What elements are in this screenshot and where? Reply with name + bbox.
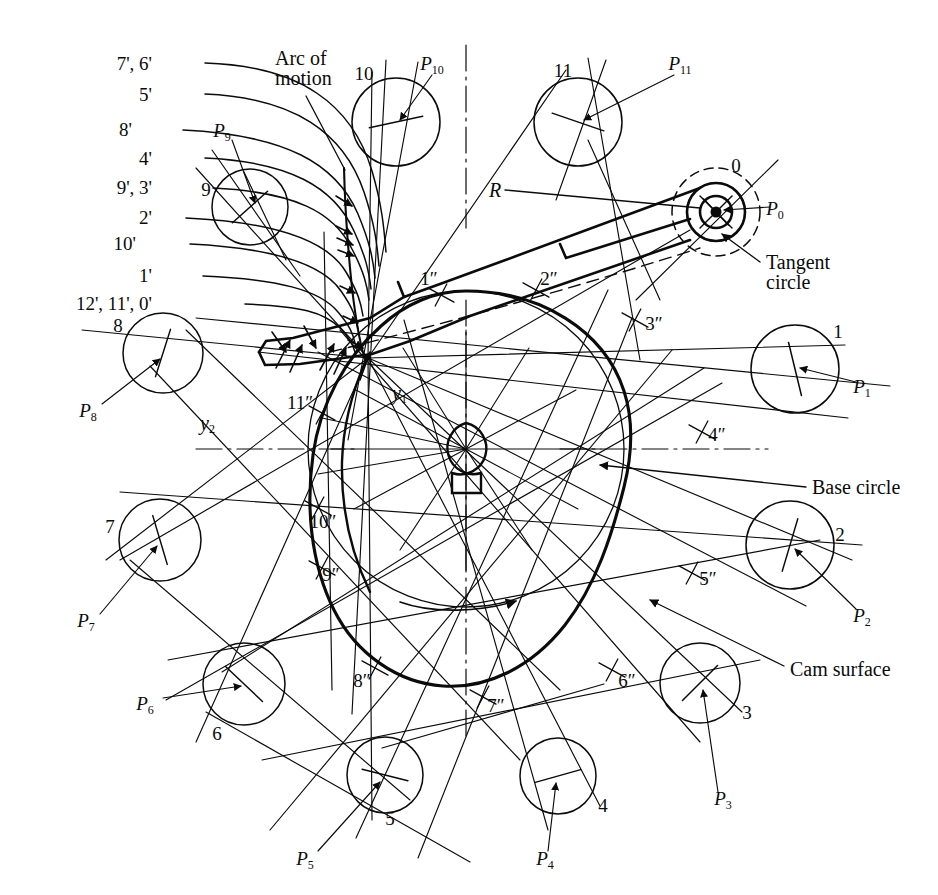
cam-layout-drawing <box>0 0 938 895</box>
position-label-P0: P0 <box>766 199 784 220</box>
roller-tick-3 <box>682 665 717 700</box>
leader-tangent-circle <box>722 234 760 262</box>
position-label-P2: P2 <box>853 606 871 627</box>
roller-number-5: 5 <box>385 809 395 828</box>
position-label-P4: P4 <box>536 849 554 870</box>
position-label-P10: P10 <box>420 54 444 75</box>
roller-number-11: 11 <box>554 61 572 80</box>
roller-number-1: 1 <box>833 322 843 341</box>
double-prime-label-2: 2″ <box>540 269 557 288</box>
prime-label-4: 4' <box>139 149 152 168</box>
y1-label: y1 <box>392 383 407 405</box>
roller-number-0: 0 <box>731 156 741 175</box>
annotation-leaders <box>306 96 806 666</box>
double-prime-label-8: 8″ <box>353 671 370 690</box>
position-label-P9: P9 <box>213 121 231 142</box>
roller-leader-8 <box>102 359 160 404</box>
double-prime-label-3: 3″ <box>645 314 662 333</box>
diagram-canvas: 7', 6'5'8'4'9', 3'2'10'1'12', 11', 0' 0P… <box>0 0 938 895</box>
position-label-P11: P11 <box>668 54 691 75</box>
leader-arc-of-motion <box>306 96 345 170</box>
position-label-P6: P6 <box>136 694 154 715</box>
position-label-P8: P8 <box>79 401 97 422</box>
roller-tick-6 <box>226 667 263 702</box>
double-prime-label-4: 4″ <box>708 425 725 444</box>
double-prime-label-7: 7″ <box>487 696 504 715</box>
roller-leader-6 <box>163 686 241 698</box>
position-label-P3: P3 <box>714 789 732 810</box>
roller-number-3: 3 <box>742 703 752 722</box>
roller-leader-10 <box>400 75 432 120</box>
roller-number-4: 4 <box>598 796 608 815</box>
roller-leader-4 <box>548 783 556 851</box>
radius-label: R <box>489 180 501 200</box>
arc-of-motion-label: Arc of motion <box>275 48 332 88</box>
base-circle-label: Base circle <box>812 477 900 497</box>
tangent-circle-label: Tangent circle <box>766 252 830 292</box>
position-label-P7: P7 <box>77 611 95 632</box>
cam-surface-label: Cam surface <box>790 659 891 679</box>
prime-label-1: 7', 6' <box>117 54 152 73</box>
roller-leader-3 <box>703 690 718 792</box>
double-prime-label-11: 11″ <box>287 393 313 412</box>
roller-tick-1 <box>789 342 802 395</box>
double-prime-label-1: 1″ <box>420 269 437 288</box>
prime-label-6: 2' <box>139 208 152 227</box>
roller-tick-9 <box>232 191 267 222</box>
double-prime-label-6: 6″ <box>618 671 635 690</box>
center-lines <box>196 45 768 740</box>
roller-tick-4 <box>535 770 580 783</box>
double-prime-label-10: 10″ <box>310 512 337 531</box>
roller-number-8: 8 <box>113 316 123 335</box>
y2-label: y2 <box>200 413 215 435</box>
roller-number-10: 10 <box>355 64 374 83</box>
double-prime-label-9: 9″ <box>322 565 339 584</box>
roller-number-2: 2 <box>835 525 845 544</box>
position-label-P1: P1 <box>853 377 871 398</box>
prime-label-8: 1' <box>139 266 152 285</box>
roller-tick-8 <box>156 329 171 376</box>
leader-base-circle <box>600 465 806 487</box>
roller-number-6: 6 <box>212 724 222 743</box>
roller-number-7: 7 <box>105 517 115 536</box>
position-label-P5: P5 <box>296 849 314 870</box>
roller-tick-11 <box>552 113 604 131</box>
prime-label-2: 5' <box>139 85 152 104</box>
cam-hub <box>447 423 486 493</box>
prime-label-3: 8' <box>119 120 132 139</box>
prime-label-9: 12', 11', 0' <box>76 294 152 313</box>
roller-tick-10 <box>369 116 422 127</box>
roller-number-9: 9 <box>201 180 211 199</box>
roller-leader-5 <box>318 782 380 851</box>
prime-label-5: 9', 3' <box>117 178 152 197</box>
double-prime-label-5: 5″ <box>699 569 716 588</box>
prime-label-7: 10' <box>114 234 136 253</box>
